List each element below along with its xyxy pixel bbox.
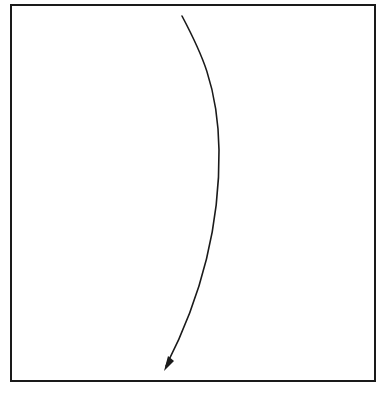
diagram-canvas [0, 0, 377, 395]
curved-arrow-shaft [166, 16, 219, 366]
frame-rectangle [11, 5, 375, 381]
arrowhead-icon [164, 356, 174, 371]
